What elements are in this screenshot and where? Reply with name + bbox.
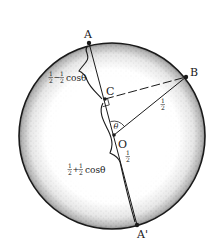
label-oaprime-length: 1 2: [126, 149, 131, 163]
label-aprime: A': [136, 228, 148, 241]
label-ac-length: 1 2 − 1 2 cosθ: [49, 70, 87, 84]
svg-text:2: 2: [161, 104, 165, 111]
label-theta: θ: [114, 122, 119, 131]
point-a: [87, 41, 91, 45]
label-b: B: [190, 66, 198, 79]
svg-text:1: 1: [68, 162, 72, 169]
svg-text:2: 2: [49, 77, 53, 84]
svg-text:2: 2: [126, 156, 130, 163]
point-aprime: [135, 223, 139, 227]
svg-text:cosθ: cosθ: [66, 73, 87, 83]
sphere-geometry-diagram: A B C O A' θ 1 2 − 1 2 cosθ 1 2 + 1 2 co…: [0, 0, 218, 250]
svg-text:1: 1: [49, 70, 53, 77]
svg-text:cosθ: cosθ: [85, 165, 106, 175]
svg-text:1: 1: [60, 70, 64, 77]
label-caprime-length: 1 2 + 1 2 cosθ: [68, 162, 106, 176]
svg-text:1: 1: [161, 97, 165, 104]
svg-text:1: 1: [79, 162, 83, 169]
svg-text:1: 1: [126, 149, 130, 156]
label-ob-length: 1 2: [161, 97, 166, 111]
point-o: [112, 133, 116, 137]
point-b: [184, 75, 188, 79]
label-a: A: [83, 28, 93, 41]
svg-text:2: 2: [68, 169, 72, 176]
sphere: [19, 43, 205, 229]
svg-text:2: 2: [79, 169, 83, 176]
svg-text:2: 2: [60, 77, 64, 84]
label-c: C: [106, 85, 114, 98]
